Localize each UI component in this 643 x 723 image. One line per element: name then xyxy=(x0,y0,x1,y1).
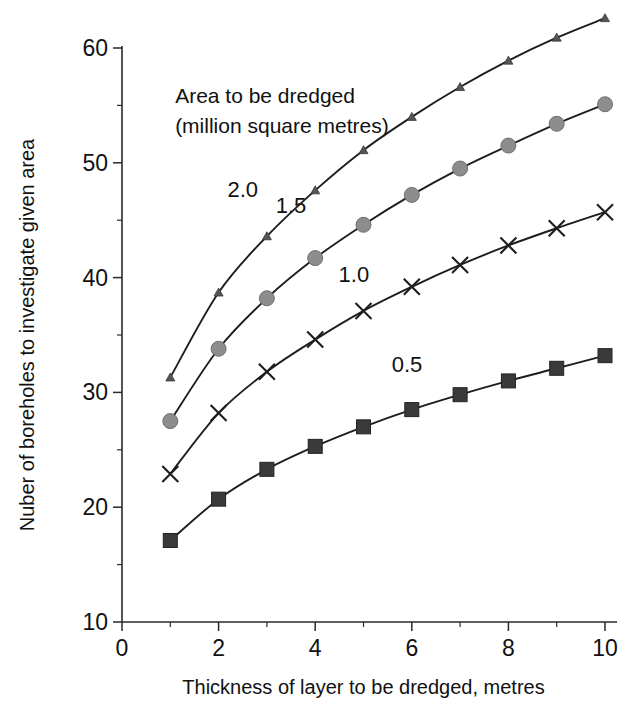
data-point-marker xyxy=(501,374,515,388)
data-point-marker xyxy=(308,439,322,453)
y-tick-label: 40 xyxy=(82,265,108,291)
data-point-marker xyxy=(598,97,613,112)
data-point-marker xyxy=(211,405,227,421)
data-point-marker xyxy=(550,361,564,375)
data-point-marker xyxy=(163,414,178,429)
data-point-marker xyxy=(549,220,565,236)
data-point-marker xyxy=(405,403,419,417)
data-point-marker xyxy=(407,112,416,120)
data-point-marker xyxy=(500,237,516,253)
series-label-0.5: 0.5 xyxy=(392,352,423,377)
x-tick-label: 4 xyxy=(309,635,322,661)
borehole-count-chart: 1020304050600246810Thickness of layer to… xyxy=(0,0,643,723)
data-point-marker xyxy=(259,291,274,306)
x-tick-label: 0 xyxy=(116,635,129,661)
series-curve-1.0 xyxy=(170,212,605,474)
data-point-marker xyxy=(356,303,372,319)
data-point-marker xyxy=(456,83,465,91)
data-point-marker xyxy=(212,492,226,506)
y-tick-label: 50 xyxy=(82,150,108,176)
data-point-marker xyxy=(453,161,468,176)
data-point-marker xyxy=(260,462,274,476)
data-point-marker xyxy=(356,217,371,232)
data-point-marker xyxy=(404,187,419,202)
y-tick-label: 10 xyxy=(82,609,108,635)
data-point-marker xyxy=(166,373,175,381)
data-point-marker xyxy=(601,14,610,22)
y-tick-label: 20 xyxy=(82,494,108,520)
data-point-marker xyxy=(501,138,516,153)
x-tick-label: 8 xyxy=(502,635,515,661)
series-label-1.5: 1.5 xyxy=(276,193,307,218)
series-curve-0.5 xyxy=(170,356,605,541)
data-point-marker xyxy=(453,388,467,402)
chart-annotation: Area to be dredged xyxy=(175,84,355,107)
data-point-marker xyxy=(504,56,513,64)
chart-container: 1020304050600246810Thickness of layer to… xyxy=(0,0,643,723)
x-tick-label: 2 xyxy=(212,635,225,661)
data-point-marker xyxy=(404,279,420,295)
data-point-marker xyxy=(598,349,612,363)
data-point-marker xyxy=(452,257,468,273)
series-label-1.0: 1.0 xyxy=(339,262,370,287)
data-point-marker xyxy=(163,533,177,547)
data-point-marker xyxy=(597,204,613,220)
data-point-marker xyxy=(357,420,371,434)
y-tick-label: 30 xyxy=(82,379,108,405)
data-point-marker xyxy=(549,116,564,131)
x-axis-title: Thickness of layer to be dredged, metres xyxy=(182,676,544,698)
y-tick-label: 60 xyxy=(82,35,108,61)
y-axis-title: Nuber of boreholes to investigate given … xyxy=(16,138,38,531)
x-tick-label: 6 xyxy=(405,635,418,661)
series-label-2.0: 2.0 xyxy=(227,177,258,202)
data-point-marker xyxy=(259,364,275,380)
data-point-marker xyxy=(307,332,323,348)
data-point-marker xyxy=(211,341,226,356)
data-point-marker xyxy=(308,251,323,266)
chart-annotation: (million square metres) xyxy=(175,114,389,137)
x-tick-label: 10 xyxy=(592,635,618,661)
data-point-marker xyxy=(162,466,178,482)
